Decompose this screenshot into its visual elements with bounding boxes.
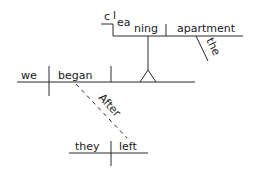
subject-we: we [21, 69, 37, 82]
verb-began: began [58, 69, 92, 82]
subordinate-subject-they: they [75, 140, 100, 153]
gerund-part-ning: ning [134, 22, 158, 35]
gerund-part-c: c [104, 10, 110, 23]
pedestal-foot [140, 70, 156, 82]
subordinate-verb-left: left [119, 140, 138, 153]
gerund-part-l: l [113, 9, 116, 22]
object-apartment: apartment [177, 22, 236, 35]
modifier-the: the [203, 36, 223, 58]
diagram-svg: we began c l ea ning apartment the After… [0, 0, 259, 171]
gerund-part-ea: ea [117, 16, 131, 29]
sentence-diagram: we began c l ea ning apartment the After… [0, 0, 259, 171]
conjunction-after: After [96, 91, 124, 120]
